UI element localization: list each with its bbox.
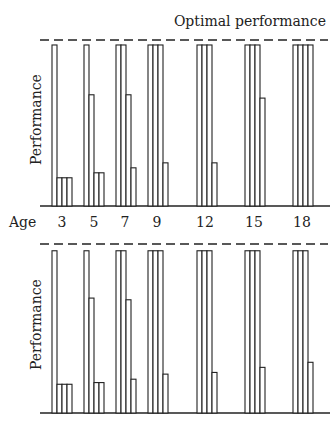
bar: [89, 95, 94, 206]
bar: [163, 163, 168, 206]
bar: [303, 45, 308, 206]
bar: [94, 383, 99, 413]
bar: [245, 45, 250, 206]
bar: [298, 251, 303, 413]
bar: [52, 45, 57, 206]
bar: [153, 251, 158, 413]
bar: [308, 45, 313, 206]
bar: [148, 251, 153, 413]
bar: [131, 379, 136, 413]
bar: [57, 384, 62, 413]
bar: [121, 251, 126, 413]
bar: [148, 45, 153, 206]
bar: [62, 178, 67, 206]
bar: [293, 45, 298, 206]
bar: [116, 45, 121, 206]
bar: [308, 362, 313, 413]
bar: [303, 251, 308, 413]
bar: [245, 251, 250, 413]
bar: [207, 251, 212, 413]
bar: [84, 251, 89, 413]
bar: [57, 178, 62, 206]
bar: [126, 95, 131, 206]
bar: [67, 178, 72, 206]
bar: [84, 45, 89, 206]
bar: [99, 383, 104, 413]
bar: [260, 367, 265, 413]
bar: [255, 45, 260, 206]
bar: [260, 98, 265, 206]
bar: [212, 372, 217, 413]
bar: [158, 251, 163, 413]
bar: [126, 300, 131, 413]
bar: [293, 251, 298, 413]
bar: [158, 45, 163, 206]
bar: [116, 251, 121, 413]
bar: [52, 251, 57, 413]
bar: [99, 173, 104, 206]
bar: [298, 45, 303, 206]
bar: [89, 298, 94, 413]
bar: [255, 251, 260, 413]
bar: [67, 384, 72, 413]
bar: [94, 173, 99, 206]
bar: [250, 45, 255, 206]
bar: [202, 251, 207, 413]
bar: [212, 163, 217, 206]
bar: [163, 374, 168, 413]
bar: [202, 45, 207, 206]
bar: [121, 45, 126, 206]
bar: [197, 45, 202, 206]
bar-charts: [0, 0, 331, 432]
bar: [250, 251, 255, 413]
bar: [153, 45, 158, 206]
bar: [62, 384, 67, 413]
bar: [131, 168, 136, 206]
bar: [197, 251, 202, 413]
bar: [207, 45, 212, 206]
